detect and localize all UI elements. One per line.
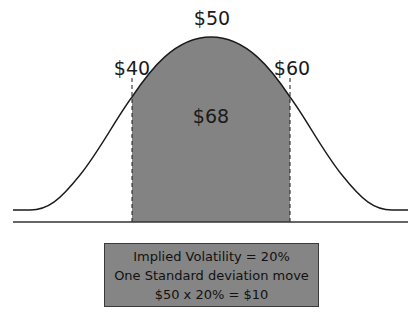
volatility-info-box: Implied Volatility = 20% One Standard de… (104, 243, 319, 307)
shaded-one-sd-area (132, 37, 290, 222)
info-line-calculation: $50 x 20% = $10 (155, 285, 269, 304)
info-line-implied-volatility: Implied Volatility = 20% (133, 247, 290, 266)
info-line-std-dev-move: One Standard deviation move (114, 266, 309, 285)
area-value-label: $68 (193, 107, 229, 126)
lower-bound-label: $40 (114, 59, 150, 78)
mean-label: $50 (194, 9, 230, 28)
upper-bound-label: $60 (274, 59, 310, 78)
